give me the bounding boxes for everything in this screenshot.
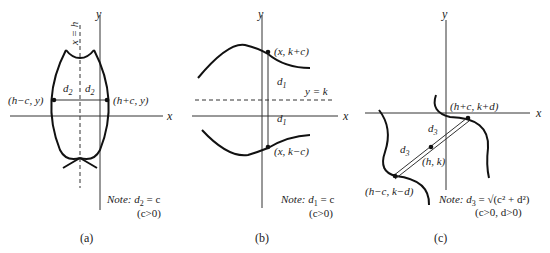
condition: (c>0, d>0) [475, 206, 522, 219]
symmetry-line-label: x = h [68, 21, 80, 46]
panel-caption: (c) [434, 231, 447, 245]
note: Note: d2 = c [106, 193, 160, 208]
y-axis-label: y [257, 7, 264, 21]
distance-label-left: d2 [63, 82, 73, 97]
x-axis-label: x [535, 106, 542, 120]
symmetry-line-label: y = k [304, 85, 329, 97]
condition: (c>0) [309, 207, 333, 220]
point-left [52, 98, 57, 103]
point-upper-right [466, 116, 471, 121]
panel-caption: (b) [255, 231, 269, 245]
distance-label-upper: d3 [428, 122, 438, 137]
point-lower [266, 145, 271, 150]
note: Note: d1 = c [280, 193, 334, 208]
panel-a: y x x = h d2 d2 (h−c, y) (h+c, y) Note: … [8, 7, 173, 245]
panel-b: y x y = k d1 d1 (x, k+c) (x, k−c) Note: … [192, 7, 349, 245]
symmetry-figure: y x x = h d2 d2 (h−c, y) (h+c, y) Note: … [0, 0, 550, 253]
point-center [429, 145, 434, 150]
y-axis-label: y [441, 7, 448, 21]
point-label-upper: (x, k+c) [274, 45, 309, 58]
point-label-center: (h, k) [422, 155, 446, 168]
point-label-left: (h−c, y) [8, 94, 44, 107]
panel-c: y x d3 d3 (h+c, k+d) (h, k) (h−c, k−d) N… [365, 7, 542, 245]
point-upper [266, 50, 271, 55]
curve-left-branch [51, 50, 97, 168]
distance-label-right: d2 [85, 82, 95, 97]
point-label-right: (h+c, y) [113, 94, 149, 107]
x-axis-label: x [342, 109, 349, 123]
y-axis-label: y [95, 7, 102, 21]
distance-label-lower: d3 [400, 143, 410, 158]
distance-label-upper: d1 [277, 75, 287, 90]
point-label-lower-left: (h−c, k−d) [365, 185, 414, 198]
x-axis-label: x [166, 109, 173, 123]
point-label-lower: (x, k−c) [274, 145, 309, 158]
point-right [105, 98, 110, 103]
distance-label-lower: d1 [277, 112, 287, 127]
point-label-upper-right: (h+c, k+d) [450, 100, 499, 113]
condition: (c>0) [137, 207, 161, 220]
curve-right-branch [63, 50, 109, 168]
point-lower-left [393, 174, 398, 179]
panel-caption: (a) [80, 231, 93, 245]
